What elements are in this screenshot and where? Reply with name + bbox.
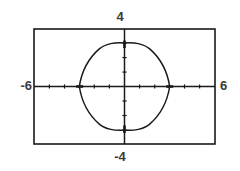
plot-svg [33, 28, 216, 145]
x-max-label: 6 [220, 79, 236, 92]
x-min-label: -6 [8, 79, 32, 92]
plot-area [33, 28, 216, 145]
calculator-screen: 4 -4 -6 6 [0, 0, 240, 171]
y-max-label: 4 [0, 10, 240, 23]
y-min-label: -4 [0, 150, 240, 163]
